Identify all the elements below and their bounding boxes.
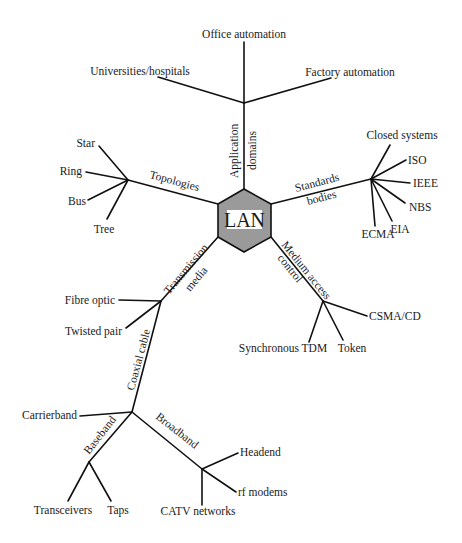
leaf-iso: ISO bbox=[408, 154, 427, 166]
application-label-line1: Application bbox=[228, 123, 241, 178]
headend-edge bbox=[202, 453, 238, 469]
application-label-line2: domains bbox=[246, 131, 258, 170]
leaf-closed-systems: Closed systems bbox=[366, 129, 438, 142]
leaf-carrierband: Carrierband bbox=[22, 409, 77, 421]
leaf-catv-networks: CATV networks bbox=[161, 505, 236, 517]
leaf-token: Token bbox=[338, 342, 367, 354]
hub-label: LAN bbox=[224, 209, 265, 231]
lan-taxonomy-diagram: Office automation Universities/hospitals… bbox=[0, 0, 462, 543]
leaf-csma-cd: CSMA/CD bbox=[369, 310, 421, 322]
leaf-twisted-pair: Twisted pair bbox=[65, 325, 122, 338]
broadband-label: Broadband bbox=[154, 410, 201, 451]
standards-label-line2: bodies bbox=[305, 187, 338, 206]
fibre-optic-edge bbox=[119, 300, 161, 301]
rf-modems-edge bbox=[202, 469, 236, 492]
leaf-synchronous-tdm: Synchronous TDM bbox=[239, 342, 327, 355]
topologies-label: Topologies bbox=[148, 168, 201, 194]
application-domains-branch: Office automation Universities/hospitals… bbox=[90, 28, 395, 189]
sync-tdm-edge bbox=[309, 301, 323, 342]
lan-hub: LAN bbox=[218, 189, 271, 252]
leaf-tree: Tree bbox=[94, 223, 115, 235]
topologies-branch: Star Ring Bus Tree Topologies bbox=[60, 137, 218, 235]
transceivers-edge bbox=[68, 462, 89, 501]
transmission-media-branch: Fibre optic Twisted pair Transmission me… bbox=[22, 237, 288, 517]
leaf-star: Star bbox=[76, 137, 95, 149]
leaf-ecma: ECMA bbox=[361, 228, 395, 240]
leaf-rf-modems: rf modems bbox=[238, 486, 288, 498]
leaf-ieee: IEEE bbox=[413, 177, 438, 189]
universities-edge bbox=[158, 77, 244, 103]
leaf-factory-automation: Factory automation bbox=[305, 66, 395, 79]
leaf-transceivers: Transceivers bbox=[34, 504, 93, 516]
leaf-taps: Taps bbox=[107, 504, 129, 517]
factory-automation-edge bbox=[244, 78, 331, 103]
leaf-nbs: NBS bbox=[409, 201, 431, 213]
leaf-universities-hospitals: Universities/hospitals bbox=[90, 65, 190, 78]
taps-edge bbox=[89, 462, 111, 501]
leaf-headend: Headend bbox=[240, 446, 281, 458]
medium-access-control-branch: CSMA/CD Token Synchronous TDM Medium acc… bbox=[239, 237, 421, 355]
leaf-office-automation: Office automation bbox=[202, 28, 286, 40]
leaf-fibre-optic: Fibre optic bbox=[65, 294, 115, 307]
leaf-bus: Bus bbox=[68, 195, 86, 207]
standards-bodies-branch: Closed systems ISO IEEE NBS EIA ECMA Sta… bbox=[271, 129, 438, 240]
leaf-ring: Ring bbox=[60, 165, 83, 178]
coaxial-cable-label: Coaxial cable bbox=[124, 328, 152, 392]
